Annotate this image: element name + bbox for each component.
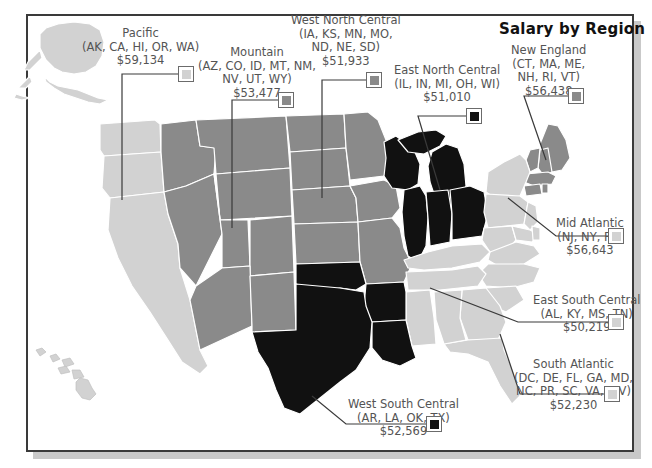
region-states: (IA, KS, MN, MO, — [299, 27, 393, 41]
region-ma-ny — [486, 154, 530, 200]
region-ma-pa — [484, 194, 528, 228]
callout-west-north-central: West North Central (IA, KS, MN, MO, ND, … — [291, 14, 401, 68]
region-name: East South Central — [533, 293, 640, 307]
region-wnc-ne — [292, 186, 358, 224]
region-sa-de — [532, 226, 540, 240]
callout-east-north-central: East North Central (IL, IN, MI, OH, WI) … — [394, 64, 500, 105]
region-value: $56,643 — [556, 244, 624, 258]
region-wnc-nd — [286, 114, 346, 152]
swatch-west-north-central — [366, 72, 382, 88]
region-mountain-wy — [216, 168, 292, 220]
swatch-east-north-central — [466, 108, 482, 124]
region-sa-fl — [444, 338, 520, 404]
region-value: $53,477 — [198, 87, 316, 101]
swatch-mountain — [278, 92, 294, 108]
region-pacific-hawaii — [36, 348, 96, 400]
region-states: (DC, DE, FL, GA, MD, — [514, 371, 633, 385]
swatch-pacific — [178, 66, 194, 82]
region-name: Mountain — [230, 45, 284, 59]
chart-canvas: Salary by Region Pacific (AK, CA, HI, OR… — [0, 0, 652, 468]
region-ne-ct — [524, 184, 542, 196]
region-pacific-or — [102, 152, 164, 198]
page-title: Salary by Region — [499, 20, 645, 38]
region-wnc-ks — [294, 222, 360, 264]
region-name: South Atlantic — [533, 357, 614, 371]
region-value: $51,010 — [394, 91, 500, 105]
region-value: $52,569 — [348, 425, 459, 439]
region-pacific-wa — [100, 120, 161, 156]
callout-east-south-central: East South Central (AL, KY, MS, TN) $50,… — [533, 294, 640, 335]
region-value: $50,219 — [533, 321, 640, 335]
region-states-2: NV, UT, WY) — [222, 72, 291, 86]
region-mountain-co — [250, 216, 294, 276]
swatch-new-england — [568, 88, 584, 104]
swatch-mid-atlantic — [608, 228, 624, 244]
region-enc-oh — [450, 186, 488, 240]
region-name: West South Central — [348, 397, 459, 411]
region-sa-nc — [478, 264, 540, 288]
region-name: New England — [511, 43, 586, 57]
swatch-east-south-central — [608, 314, 624, 330]
swatch-west-south-central — [426, 416, 442, 432]
swatch-south-atlantic — [604, 386, 620, 402]
callout-south-atlantic: South Atlantic (DC, DE, FL, GA, MD, NC, … — [514, 358, 633, 412]
region-states-2: ND, NE, SD) — [312, 40, 381, 54]
region-name: Pacific — [122, 26, 159, 40]
region-wnc-sd — [290, 148, 350, 190]
region-enc-in — [426, 190, 452, 246]
region-states: (AK, CA, HI, OR, WA) — [82, 40, 199, 54]
region-states: (CT, MA, ME, — [512, 57, 585, 71]
callout-pacific: Pacific (AK, CA, HI, OR, WA) $59,134 — [82, 27, 199, 68]
region-ne-ri — [542, 184, 548, 193]
region-name: East North Central — [394, 63, 500, 77]
region-mountain-nm — [250, 272, 296, 332]
region-name: West North Central — [291, 13, 401, 27]
region-states: (IL, IN, MI, OH, WI) — [394, 77, 500, 91]
callout-west-south-central: West South Central (AR, LA, OK, TX) $52,… — [348, 398, 459, 439]
region-value: $51,933 — [291, 55, 401, 69]
region-states-2: NH, RI, VT) — [517, 70, 580, 84]
